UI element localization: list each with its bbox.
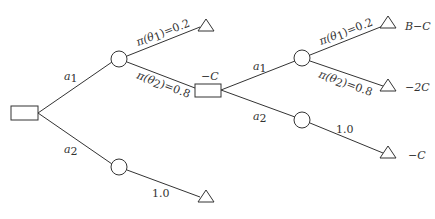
payoff-label-minus-c: −C bbox=[408, 149, 426, 162]
edge-root-a1 bbox=[38, 62, 112, 113]
chance-node-a1-second bbox=[294, 50, 310, 66]
second-decision-node bbox=[195, 84, 221, 97]
terminal-node-1 bbox=[198, 19, 214, 31]
edge-label-root-a2: a2 bbox=[64, 143, 78, 158]
edge-label-c3-theta2: π(θ2)=0.8 bbox=[315, 67, 374, 101]
terminal-node-3 bbox=[380, 16, 396, 28]
payoff-label-minus-2c: −2C bbox=[405, 81, 430, 94]
terminal-node-4 bbox=[380, 79, 396, 91]
terminal-node-5 bbox=[380, 146, 396, 158]
edges bbox=[38, 26, 383, 197]
chance-node-a1 bbox=[111, 51, 127, 67]
decision-2-cost-label: −C bbox=[201, 70, 219, 83]
decision-tree-diagram: a1 a2 π(θ1)=0.2 π(θ2)=0.8 1.0 −C a1 a2 π… bbox=[0, 0, 435, 219]
edge-label-c4-prob: 1.0 bbox=[336, 123, 354, 136]
edge-label-d2-a2: a2 bbox=[253, 110, 267, 125]
terminal-node-2 bbox=[198, 190, 214, 202]
edge-label-d2-a1: a1 bbox=[253, 60, 267, 75]
chance-node-a2 bbox=[111, 159, 127, 175]
edge-label-root-a1: a1 bbox=[64, 70, 78, 85]
root-decision-node bbox=[11, 106, 38, 120]
edge-label-c1-theta2: π(θ2)=0.8 bbox=[133, 68, 192, 102]
payoff-label-b-minus-c: B−C bbox=[404, 20, 431, 33]
edge-label-c2-prob: 1.0 bbox=[152, 187, 170, 200]
chance-node-a2-second bbox=[294, 112, 310, 128]
